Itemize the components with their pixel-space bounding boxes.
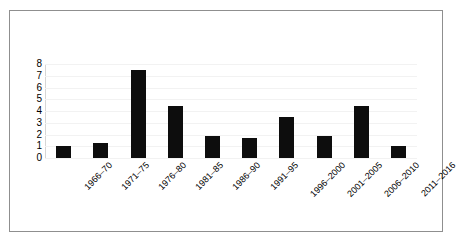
bar — [205, 136, 220, 158]
y-axis-tick-label: 3 — [36, 118, 42, 128]
y-axis-tick-label: 4 — [36, 106, 42, 116]
chart-figure: 876543210 1966–701971–751976–801981–8519… — [0, 0, 459, 243]
x-axis-tick-label: 1971–75 — [119, 160, 151, 192]
bar — [242, 138, 257, 158]
x-axis-tick-label: 2001–2005 — [345, 160, 384, 199]
bar — [93, 143, 108, 158]
y-axis-tick-label: 1 — [36, 141, 42, 151]
y-axis-tick-label: 2 — [36, 130, 42, 140]
x-axis-tick-label: 1966–70 — [82, 160, 114, 192]
y-axis-tick-label: 0 — [36, 153, 42, 163]
x-axis-tick-label: 2011–2016 — [419, 160, 457, 198]
y-axis-tick-label: 7 — [36, 71, 42, 81]
x-axis-tick-label: 1996–2000 — [308, 160, 347, 199]
bar — [317, 136, 332, 158]
bar — [131, 70, 146, 158]
bar — [391, 146, 406, 158]
plot-area — [45, 64, 417, 158]
x-axis-tick-label: 1981–85 — [193, 160, 225, 192]
bar-series — [45, 64, 417, 158]
bar — [279, 117, 294, 158]
x-axis-tick-label: 1976–80 — [156, 160, 188, 192]
x-axis-tick-label: 2006–2010 — [382, 160, 421, 199]
bar — [354, 106, 369, 158]
x-axis-tick-labels: 1966–701971–751976–801981–851986–901991–… — [45, 160, 417, 220]
gridline — [45, 158, 417, 159]
y-axis-tick-labels: 876543210 — [24, 64, 42, 158]
x-axis-tick-label: 1991–95 — [268, 160, 300, 192]
bar — [168, 106, 183, 158]
y-axis-tick-label: 5 — [36, 94, 42, 104]
chart-border-frame: 876543210 1966–701971–751976–801981–8519… — [9, 10, 443, 232]
y-axis-tick-label: 6 — [36, 83, 42, 93]
bar — [56, 146, 71, 158]
x-axis-tick-label: 1986–90 — [230, 160, 262, 192]
y-axis-tick-label: 8 — [36, 59, 42, 69]
